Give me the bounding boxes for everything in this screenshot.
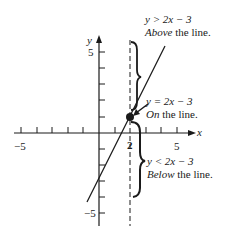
on-description: On the line. <box>146 108 198 120</box>
x-tick-label-5: 5 <box>174 140 180 152</box>
y-axis-label: y <box>87 34 92 46</box>
y-tick-label-neg5: −5 <box>84 207 96 219</box>
below-inequality: y < 2x − 3 <box>147 155 194 167</box>
x-tick-label-neg5: −5 <box>14 140 26 152</box>
on-rest: the line. <box>159 108 197 120</box>
y-axis-arrow-icon <box>96 35 102 43</box>
x-axis-label: x <box>197 126 202 138</box>
above-description: Above the line. <box>145 26 211 38</box>
upper-brace-icon <box>131 42 141 110</box>
x-tick-label-2: 2 <box>127 139 133 151</box>
on-emphasis: On <box>146 108 159 120</box>
y-tick-label-5: 5 <box>88 46 94 58</box>
on-equation: y = 2x − 3 <box>146 95 193 107</box>
above-inequality: y > 2x − 3 <box>145 13 192 25</box>
point-2-1 <box>126 113 134 121</box>
below-emphasis: Below <box>147 168 175 180</box>
above-rest: the line. <box>172 26 210 38</box>
x-axis-arrow-icon <box>188 130 196 136</box>
below-rest: the line. <box>175 168 213 180</box>
below-description: Below the line. <box>147 168 213 180</box>
above-emphasis: Above <box>145 26 172 38</box>
